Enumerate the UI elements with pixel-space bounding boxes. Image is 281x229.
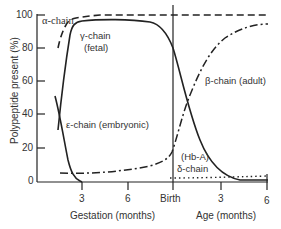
delta-chain-label: δ-chain xyxy=(177,164,208,174)
x-axis-label-gestation: Gestation (months) xyxy=(70,211,155,221)
y-ticks xyxy=(37,15,45,148)
y-tick-60: 60 xyxy=(22,76,33,86)
hba-label: (Hb-A) xyxy=(181,152,209,162)
x-tick-gest-3: 3 xyxy=(79,194,85,204)
y-tick-80: 80 xyxy=(22,43,33,53)
delta-chain-curve xyxy=(170,176,268,178)
y-tick-40: 40 xyxy=(22,109,33,119)
y-axis-label: Polypeptide present (%) xyxy=(9,37,20,144)
y-tick-100: 100 xyxy=(16,10,33,20)
epsilon-chain-curve xyxy=(55,96,82,182)
y-tick-20: 20 xyxy=(22,143,33,153)
hemoglobin-chain-chart xyxy=(0,0,281,229)
x-tick-age-6: 6 xyxy=(264,196,270,206)
x-tick-age-3: 3 xyxy=(218,194,224,204)
gamma-chain-label: γ-chain xyxy=(80,31,111,41)
alpha-chain-label: α-chain xyxy=(42,16,74,27)
x-axis-label-age: Age (months) xyxy=(196,211,256,221)
x-tick-birth: Birth xyxy=(160,194,181,204)
y-tick-0: 0 xyxy=(28,176,34,186)
x-tick-gest-6: 6 xyxy=(125,194,131,204)
gamma-fetal-label: (fetal) xyxy=(84,43,108,53)
epsilon-chain-label: ε-chain (embryonic) xyxy=(66,120,149,130)
beta-chain-label: β-chain (adult) xyxy=(205,76,266,86)
